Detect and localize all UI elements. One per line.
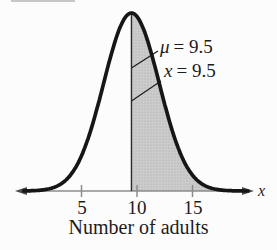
tick-label-5: 5	[77, 198, 87, 217]
mean-annotation-symbol: μ	[160, 36, 170, 57]
tick-label-15: 15	[184, 198, 203, 217]
x-annotation-symbol: x	[164, 60, 172, 81]
x-annotation-value: = 9.5	[176, 60, 215, 81]
x-axis-variable-label: x	[258, 183, 265, 199]
x-axis-caption: Number of adults	[0, 217, 277, 237]
mean-annotation: μ= 9.5	[160, 37, 213, 58]
x-annotation: x= 9.5	[164, 61, 216, 82]
normal-distribution-figure: μ= 9.5 x= 9.5 5 10 15 x Number of adults	[0, 0, 277, 250]
tick-label-10: 10	[128, 198, 147, 217]
mean-annotation-value: = 9.5	[174, 36, 213, 57]
